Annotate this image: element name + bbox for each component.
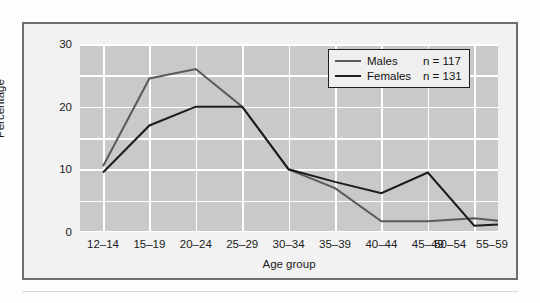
line-series-males: [103, 69, 498, 223]
x-tick-label-5: 35–39: [319, 238, 351, 250]
x-tick-label-9: 55–59: [476, 238, 508, 250]
figure-root: 30 20 10 0 Percentage 12–14 15–19 20–24 …: [0, 0, 540, 303]
legend-swatch-females-icon: [335, 75, 361, 77]
legend-n-males: n = 117: [423, 55, 461, 67]
x-tick-label-4: 30–34: [273, 238, 305, 250]
x-tick-label-2: 20–24: [180, 238, 212, 250]
x-tick-label-0: 12–14: [87, 238, 119, 250]
bottom-separator-rule: [22, 291, 518, 292]
legend-n-females: n = 131: [423, 70, 462, 82]
x-axis-title: Age group: [262, 258, 315, 270]
legend-label-males: Males: [367, 55, 423, 67]
x-tick-label-6: 40–44: [365, 238, 397, 250]
y-tick-label-0: 0: [48, 226, 72, 238]
legend-item-males: Males n = 117: [335, 53, 462, 68]
y-tick-label-20: 20: [48, 101, 72, 113]
legend-swatch-males-icon: [335, 60, 361, 62]
chart-legend: Males n = 117 Females n = 131: [328, 49, 470, 88]
y-axis-title: Percentage: [0, 79, 6, 138]
y-tick-label-30: 30: [48, 38, 72, 50]
y-tick-label-10: 10: [48, 163, 72, 175]
x-tick-label-1: 15–19: [133, 238, 165, 250]
line-series-females: [103, 107, 498, 226]
x-tick-label-3: 25–29: [226, 238, 258, 250]
legend-item-females: Females n = 131: [335, 68, 462, 83]
x-tick-label-8: 50–54: [434, 238, 466, 250]
legend-label-females: Females: [367, 70, 423, 82]
